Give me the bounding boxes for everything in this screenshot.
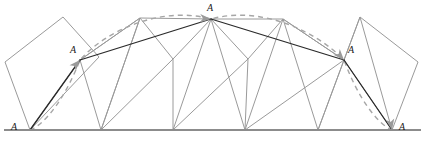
polygon-positions-group xyxy=(5,17,418,130)
vertex-label-a-apex: A xyxy=(207,3,213,13)
figure-canvas xyxy=(0,0,425,143)
kite-position-5 xyxy=(173,19,248,130)
chord-bottom-left-to-upper-left xyxy=(30,60,80,130)
vertex-label-a-right-bottom: A xyxy=(399,122,405,132)
chord-upper-right-to-bottom-right xyxy=(344,60,392,130)
kite-position-7 xyxy=(245,19,344,130)
vertex-label-a-left-upper: A xyxy=(70,45,76,55)
kite-position-1 xyxy=(5,17,99,130)
rolling-polygon-figure: AAAAA xyxy=(0,0,425,143)
vertex-label-a-right-upper: A xyxy=(348,45,354,55)
vertex-label-a-left-bottom: A xyxy=(11,122,17,132)
